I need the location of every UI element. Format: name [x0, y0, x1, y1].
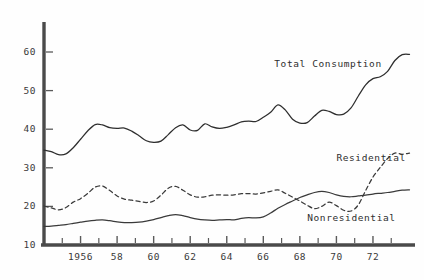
chart-plot-area [0, 0, 424, 280]
x-axis-tick-label: 1956 [64, 251, 98, 262]
y-axis-tick-label: 60 [10, 46, 36, 57]
y-axis-tick-label: 20 [10, 200, 36, 211]
x-axis-tick-label: 62 [173, 251, 207, 262]
y-axis-tick-label: 40 [10, 123, 36, 134]
x-axis-tick-label: 66 [246, 251, 280, 262]
series-annotation-label: Residential [336, 152, 406, 163]
x-axis-tick-label: 72 [356, 251, 390, 262]
x-axis-tick-label: 60 [137, 251, 171, 262]
series-annotation-label: Nonresidential [307, 212, 395, 223]
y-axis-tick-label: 50 [10, 85, 36, 96]
series-line-total-consumption [44, 54, 410, 155]
x-axis-tick-label: 58 [100, 251, 134, 262]
chart-figure: 10203040506019565860626466687072Total Co… [0, 0, 424, 280]
x-axis-tick-label: 68 [283, 251, 317, 262]
x-axis-tick-label: 64 [210, 251, 244, 262]
y-axis-tick-label: 30 [10, 162, 36, 173]
x-axis-tick-label: 70 [319, 251, 353, 262]
series-annotation-label: Total Consumption [274, 58, 381, 69]
y-axis-tick-label: 10 [10, 239, 36, 250]
